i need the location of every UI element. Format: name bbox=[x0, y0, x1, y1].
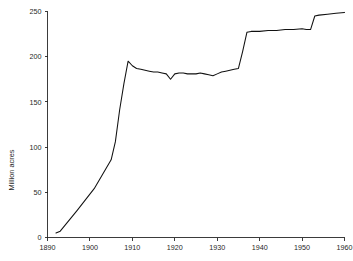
x-tick-label: 1930 bbox=[209, 243, 225, 252]
x-tick-label: 1920 bbox=[167, 243, 183, 252]
y-tick-label: 50 bbox=[34, 188, 42, 197]
x-tick-label: 1940 bbox=[252, 243, 268, 252]
x-tick-label: 1950 bbox=[294, 243, 310, 252]
x-tick-label: 1960 bbox=[337, 243, 353, 252]
x-tick-label: 1900 bbox=[82, 243, 98, 252]
y-tick-label: 250 bbox=[30, 7, 42, 16]
y-axis-tick-labels: 050100150200250 bbox=[30, 7, 42, 242]
y-axis-title: Million acres bbox=[7, 149, 16, 190]
data-series-line bbox=[56, 12, 345, 233]
y-axis-title-group: Million acres bbox=[7, 149, 16, 190]
y-tick-label: 100 bbox=[30, 143, 42, 152]
y-tick-label: 200 bbox=[30, 52, 42, 61]
x-tick-label: 1890 bbox=[40, 243, 56, 252]
chart-container: 050100150200250 189019001910192019301940… bbox=[0, 0, 353, 261]
line-chart-svg: 050100150200250 189019001910192019301940… bbox=[0, 0, 353, 261]
x-axis-tick-labels: 18901900191019201930194019501960 bbox=[40, 243, 353, 252]
x-tick-label: 1910 bbox=[124, 243, 140, 252]
y-tick-label: 0 bbox=[38, 233, 42, 242]
y-tick-label: 150 bbox=[30, 98, 42, 107]
plot-area: 050100150200250 189019001910192019301940… bbox=[7, 7, 353, 251]
